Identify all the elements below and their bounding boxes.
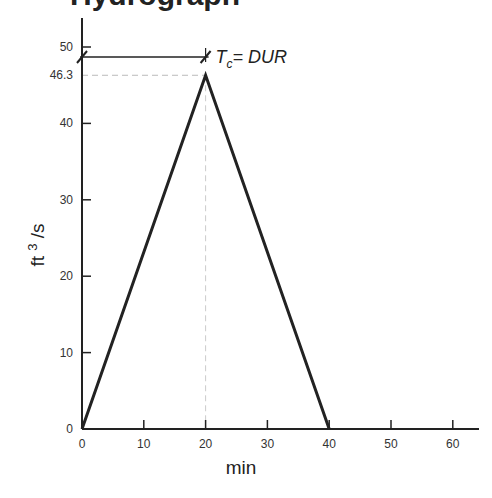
x-tick-label: 40 — [323, 437, 337, 451]
y-tick-label: 10 — [60, 346, 74, 360]
y-axis-title: ft 3 /s — [25, 223, 48, 266]
y-tick-label: 0 — [66, 422, 73, 436]
x-tick-label: 0 — [79, 437, 86, 451]
y-tick-label: 40 — [60, 116, 74, 130]
x-tick-label: 50 — [384, 437, 398, 451]
y-tick-label: 30 — [60, 193, 74, 207]
x-axis-title: min — [226, 457, 257, 478]
x-tick-label: 20 — [199, 437, 213, 451]
tc-dur-annotation: Tc= DUR — [216, 47, 288, 71]
y-tick-label: 50 — [60, 40, 74, 54]
y-tick-label: 20 — [60, 269, 74, 283]
x-tick-label: 10 — [137, 437, 151, 451]
y-tick-label-peak: 46.3 — [50, 68, 74, 82]
hydrograph-chart: 01020304050600102030405046.3Tc= DURminft… — [0, 0, 492, 498]
x-tick-label: 30 — [261, 437, 275, 451]
x-tick-label: 60 — [446, 437, 460, 451]
